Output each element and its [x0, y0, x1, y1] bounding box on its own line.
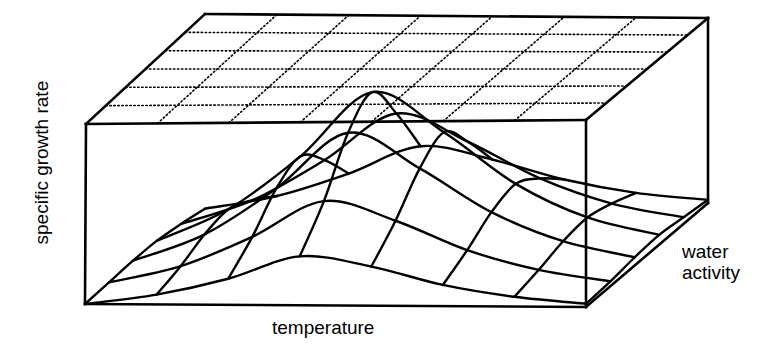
- z-axis-label: wateractivity: [682, 241, 778, 284]
- plot-box-frame: [85, 14, 708, 307]
- y-axis-label: specific growth rate: [31, 63, 52, 263]
- z-axis-label-line1: water: [682, 241, 728, 262]
- surface-plot-figure: specific growth rate temperature waterac…: [0, 0, 784, 357]
- z-axis-label-line2: activity: [682, 262, 740, 283]
- x-axis-label: temperature: [272, 317, 374, 338]
- surface-plot-canvas: [0, 0, 784, 357]
